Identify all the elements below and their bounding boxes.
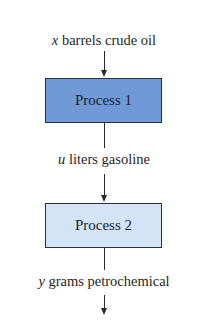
process-2-box: Process 2	[45, 203, 162, 248]
process-1-label: Process 1	[75, 92, 132, 109]
output-label: y grams petrochemical	[0, 272, 208, 290]
input-text: barrels crude oil	[58, 32, 156, 48]
arrow-process1-to-process2-line-upper	[104, 123, 105, 148]
arrow-process2-to-output-line-upper	[104, 248, 105, 270]
process-1-box: Process 1	[45, 78, 162, 123]
intermediate-label: u liters gasoline	[0, 150, 208, 168]
input-label: x barrels crude oil	[0, 31, 208, 49]
arrow-process1-to-process2-line-lower	[104, 174, 105, 196]
arrow-down-icon	[101, 70, 107, 77]
arrow-output-line-lower	[104, 295, 105, 309]
arrow-down-icon	[101, 195, 107, 202]
arrow-input-to-process1-line	[104, 51, 105, 71]
process-2-label: Process 2	[75, 217, 132, 234]
intermediate-text: liters gasoline	[65, 151, 150, 167]
output-text: grams petrochemical	[45, 273, 170, 289]
arrow-down-icon	[101, 308, 107, 315]
